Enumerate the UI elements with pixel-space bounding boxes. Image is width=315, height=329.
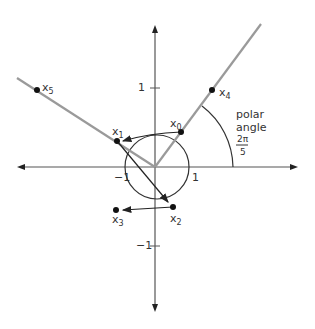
- label-x3: x3: [112, 214, 124, 225]
- annotation-frac-den: 5: [240, 148, 246, 157]
- point-x2: [170, 204, 176, 210]
- annotation-frac-num: 2π: [237, 135, 248, 144]
- label-x0: x0: [170, 118, 182, 129]
- tick-label-x-neg1: −1: [114, 172, 130, 183]
- tick-label-y-neg1: −1: [136, 240, 152, 251]
- x-axis-left-arrow-icon: [17, 164, 25, 170]
- x-axis-right-arrow-icon: [290, 164, 298, 170]
- tick-label-y-1: 1: [138, 82, 145, 93]
- annotation-angle: angle: [236, 122, 267, 133]
- point-x4: [209, 87, 215, 93]
- label-x4: x4: [219, 87, 231, 98]
- annotation-polar: polar: [236, 109, 264, 120]
- point-x5: [34, 87, 40, 93]
- polar-diagram: [0, 0, 315, 329]
- arrow-x2-x3: [123, 207, 173, 210]
- y-axis-bottom-arrow-icon: [152, 304, 158, 312]
- tick-label-x-1: 1: [192, 172, 199, 183]
- arrow-x0-x1: [123, 132, 181, 141]
- y-axis-top-arrow-icon: [152, 25, 158, 33]
- label-x5: x5: [42, 82, 54, 93]
- label-x1: x1: [112, 126, 124, 137]
- ray-polar-angle: [155, 24, 261, 167]
- polar-angle-arc: [202, 106, 233, 167]
- label-x2: x2: [170, 213, 182, 224]
